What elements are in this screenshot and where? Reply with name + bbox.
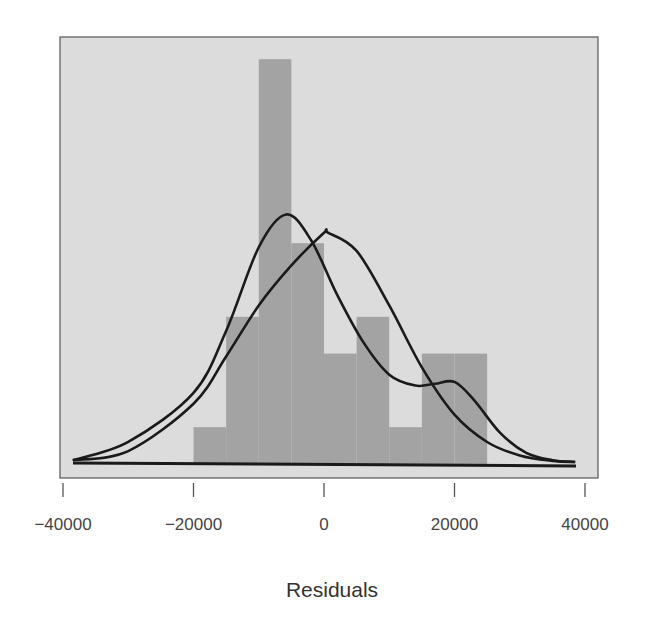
x-axis: −40000−2000002000040000 <box>34 483 608 534</box>
x-tick-label: −40000 <box>34 515 91 534</box>
histogram-bar <box>194 427 227 464</box>
histogram-bar <box>324 354 357 464</box>
x-tick-label: 0 <box>319 515 328 534</box>
histogram-bar <box>389 427 422 464</box>
histogram-bar <box>291 243 324 464</box>
histogram-chart: −40000−2000002000040000 Residuals <box>0 0 652 625</box>
x-tick-label: 20000 <box>431 515 478 534</box>
x-tick-label: −20000 <box>165 515 222 534</box>
x-tick-label: 40000 <box>561 515 608 534</box>
x-axis-title: Residuals <box>286 578 378 601</box>
histogram-bar <box>226 317 259 464</box>
histogram-bar <box>259 59 292 464</box>
